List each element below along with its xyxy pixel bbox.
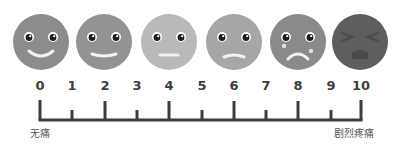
tear-icon (309, 49, 313, 53)
eye-icon (176, 32, 186, 42)
scale-number-9: 9 (319, 78, 343, 93)
face-slight-frown (206, 14, 262, 70)
pain-scale-figure: 012345678910 无痛 剧烈疼痛 (0, 0, 404, 147)
scale-number-1: 1 (60, 78, 84, 93)
face-agony (332, 14, 388, 70)
scale-number-6: 6 (222, 78, 246, 93)
face-smile (76, 14, 132, 70)
scale-number-0: 0 (28, 78, 52, 93)
eye-icon (305, 32, 315, 42)
eye-icon (281, 32, 291, 42)
label-severe-pain: 剧烈疼痛 (334, 125, 374, 140)
face-crying (270, 14, 326, 70)
scale-number-2: 2 (93, 78, 117, 93)
scale-number-7: 7 (254, 78, 278, 93)
eye-icon (87, 32, 97, 42)
eye-icon (48, 32, 58, 42)
label-no-pain: 无痛 (30, 125, 50, 140)
face-neutral (141, 14, 197, 70)
eye-icon (217, 32, 227, 42)
scale-number-3: 3 (125, 78, 149, 93)
eye-icon (152, 32, 162, 42)
scale-number-8: 8 (286, 78, 310, 93)
scale-number-4: 4 (157, 78, 181, 93)
scale-number-5: 5 (190, 78, 214, 93)
eye-icon (111, 32, 121, 42)
eye-icon (241, 32, 251, 42)
scale-number-10: 10 (349, 78, 373, 93)
eye-icon (24, 32, 34, 42)
face-big-smile (13, 14, 69, 70)
pain-scale-ruler (39, 100, 363, 120)
tear-icon (282, 44, 286, 48)
